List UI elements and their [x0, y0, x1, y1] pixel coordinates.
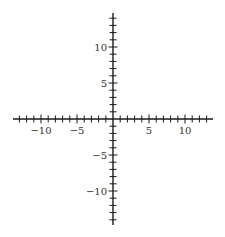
y-tick-label: −5 [92, 150, 107, 161]
x-tick-label: −10 [30, 125, 51, 136]
x-tick-label: 10 [179, 125, 192, 136]
y-tick-label: 5 [101, 78, 107, 89]
y-tick-label: −10 [86, 186, 107, 197]
x-tick-label: 5 [146, 125, 152, 136]
coordinate-plane: −10−5510 105−5−10 [0, 0, 225, 237]
y-tick-label: 10 [94, 42, 107, 53]
x-tick-label: −5 [70, 125, 85, 136]
